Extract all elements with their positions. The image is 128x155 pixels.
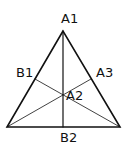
label-a1: A1 <box>61 12 78 25</box>
label-b2: B2 <box>60 131 77 144</box>
label-b1: B1 <box>16 66 33 79</box>
median-from-right <box>35 79 120 127</box>
label-a3: A3 <box>96 66 113 79</box>
median-from-left <box>7 79 91 127</box>
label-a2: A2 <box>66 89 83 102</box>
